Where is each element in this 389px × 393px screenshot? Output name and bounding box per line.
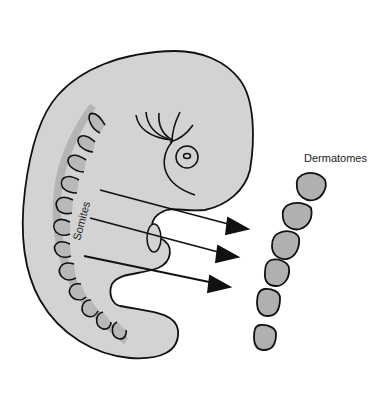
umbilical-stalk	[147, 224, 161, 252]
arrow-head-1	[226, 218, 248, 234]
dermatome-6	[254, 325, 276, 350]
dermatome-3	[272, 231, 299, 259]
dermatomes	[254, 173, 326, 350]
dermatome-1	[297, 173, 326, 200]
dermatome-2	[283, 203, 312, 230]
dermatomes-label: Dermatomes	[304, 152, 367, 164]
dermatome-4	[265, 259, 289, 286]
dermatome-5	[257, 289, 280, 316]
embryo-dermatome-diagram: Somites Dermatomes	[0, 0, 389, 393]
arrow-head-3	[208, 276, 230, 292]
arrow-head-2	[216, 246, 238, 262]
